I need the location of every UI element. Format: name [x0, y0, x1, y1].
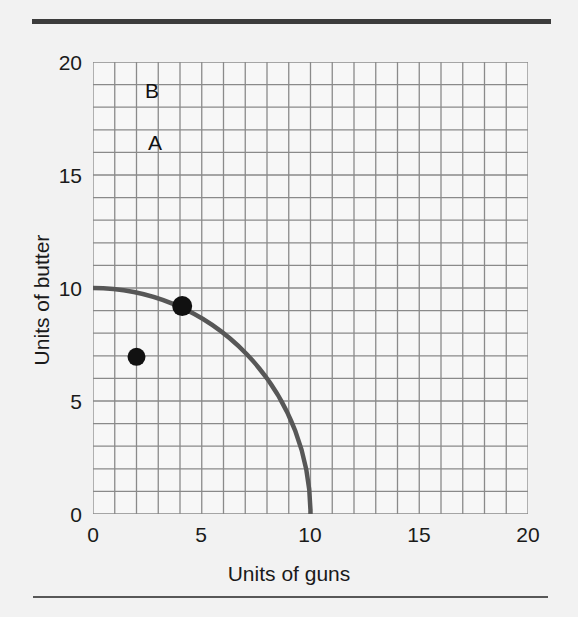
x-tick-10: 10	[280, 524, 340, 545]
chart-plot-svg	[93, 62, 528, 514]
top-divider-rule	[32, 19, 551, 24]
data-point-a-label: A	[148, 132, 162, 153]
bottom-divider-rule	[33, 596, 548, 598]
x-tick-15: 15	[389, 524, 449, 545]
x-tick-5: 5	[171, 524, 231, 545]
data-point-b-label: B	[145, 80, 159, 101]
y-axis-title: Units of butter	[30, 170, 54, 430]
chart-figure: B A 20 15 10 5 0 0 5 10 15 20 Units of g…	[0, 0, 578, 617]
data-point-b-marker	[172, 296, 192, 316]
y-tick-0: 0	[22, 504, 82, 525]
x-tick-0: 0	[63, 524, 123, 545]
x-tick-20: 20	[498, 524, 558, 545]
plot-area: B A	[93, 62, 528, 514]
y-tick-20: 20	[22, 52, 82, 73]
x-axis-title: Units of guns	[0, 562, 578, 586]
grid-lines	[93, 62, 528, 514]
data-point-a-marker	[128, 348, 146, 366]
